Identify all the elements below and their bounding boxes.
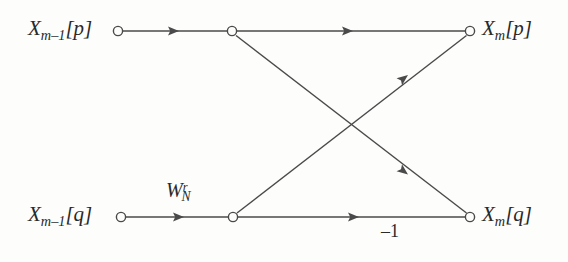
label-output-bottom-bracket: [q] <box>505 202 532 226</box>
label-twiddle-factor: WrN <box>166 180 191 204</box>
label-input-bottom-bracket: [q] <box>65 202 92 226</box>
label-input-bottom: Xm–1[q] <box>28 204 92 228</box>
arrowhead-mid-bottom-to-output-top <box>397 71 411 85</box>
label-negative-one: –1 <box>381 222 399 240</box>
node-mid-top[interactable] <box>227 26 236 35</box>
fft-butterfly-diagram: Xm–1[p] Xm–1[q] Xm[p] Xm[q] WrN –1 <box>0 0 568 262</box>
label-input-top: Xm–1[p] <box>28 18 92 42</box>
node-output-bottom[interactable] <box>465 212 474 221</box>
label-input-bottom-base: X <box>28 202 41 226</box>
label-input-top-sub: m–1 <box>41 27 66 43</box>
label-output-bottom-sub: m <box>495 213 505 229</box>
node-mid-bottom[interactable] <box>228 212 237 221</box>
arrowhead-mid-top-to-output-bottom <box>397 164 411 178</box>
label-output-bottom-base: X <box>482 202 495 226</box>
label-input-top-bracket: [p] <box>65 16 92 40</box>
label-output-bottom: Xm[q] <box>482 204 532 228</box>
label-output-top-sub: m <box>495 27 505 43</box>
label-input-bottom-sub: m–1 <box>41 213 66 229</box>
label-twiddle-sub: N <box>182 189 191 204</box>
node-input-top[interactable] <box>113 26 122 35</box>
node-input-bottom[interactable] <box>116 212 125 221</box>
label-input-top-base: X <box>28 16 41 40</box>
label-output-top-base: X <box>482 16 495 40</box>
label-twiddle-base: W <box>166 179 183 201</box>
label-output-top: Xm[p] <box>482 18 532 42</box>
label-output-top-bracket: [p] <box>505 16 532 40</box>
node-output-top[interactable] <box>465 26 474 35</box>
